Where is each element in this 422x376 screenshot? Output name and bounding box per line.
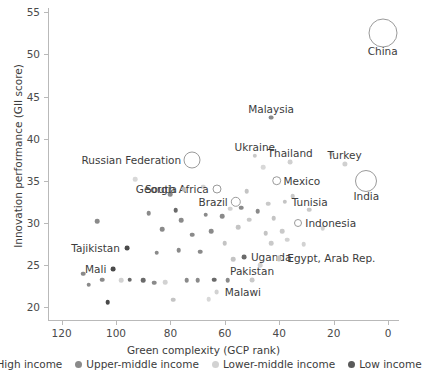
data-point-unlabeled[interactable] bbox=[280, 229, 285, 234]
data-point-unlabeled[interactable] bbox=[209, 229, 214, 234]
data-point[interactable] bbox=[184, 151, 201, 168]
data-point-unlabeled[interactable] bbox=[119, 278, 124, 283]
data-point-unlabeled[interactable] bbox=[163, 280, 168, 285]
data-point-unlabeled[interactable] bbox=[141, 278, 146, 283]
legend-dot-icon bbox=[75, 361, 82, 368]
data-point-unlabeled[interactable] bbox=[171, 297, 176, 302]
point-label: Tunisia bbox=[292, 197, 328, 208]
data-point-unlabeled[interactable] bbox=[285, 238, 290, 243]
data-point-unlabeled[interactable] bbox=[106, 300, 111, 305]
data-point-unlabeled[interactable] bbox=[206, 297, 211, 302]
legend-item-0[interactable]: High income bbox=[0, 358, 62, 370]
x-tick-label: 20 bbox=[319, 327, 349, 339]
point-label: Uganda bbox=[251, 252, 292, 263]
data-point[interactable] bbox=[269, 115, 274, 120]
data-point[interactable] bbox=[355, 170, 377, 192]
data-point[interactable] bbox=[111, 267, 116, 272]
legend-label: Low income bbox=[359, 358, 421, 370]
point-label: China bbox=[368, 46, 398, 57]
point-label: Turkey bbox=[327, 150, 361, 161]
point-label: Thailand bbox=[268, 148, 313, 159]
data-point-unlabeled[interactable] bbox=[225, 278, 230, 283]
data-point-unlabeled[interactable] bbox=[174, 208, 179, 213]
data-point-unlabeled[interactable] bbox=[146, 211, 151, 216]
data-point-unlabeled[interactable] bbox=[190, 233, 195, 238]
x-tick bbox=[170, 321, 171, 325]
data-point-unlabeled[interactable] bbox=[228, 206, 233, 211]
point-label: Malaysia bbox=[248, 103, 294, 114]
data-point[interactable] bbox=[242, 254, 247, 259]
legend-label: Upper-middle income bbox=[86, 358, 199, 370]
data-point-unlabeled[interactable] bbox=[95, 219, 100, 224]
data-point-unlabeled[interactable] bbox=[179, 218, 184, 223]
data-point[interactable] bbox=[125, 246, 130, 251]
legend-dot-icon bbox=[212, 361, 219, 368]
data-point-unlabeled[interactable] bbox=[87, 282, 92, 287]
data-point-unlabeled[interactable] bbox=[195, 278, 200, 283]
x-tick bbox=[388, 321, 389, 325]
data-point-unlabeled[interactable] bbox=[127, 277, 132, 282]
data-point-unlabeled[interactable] bbox=[176, 248, 181, 253]
data-point-unlabeled[interactable] bbox=[255, 209, 260, 214]
legend-dot-icon bbox=[348, 361, 355, 368]
data-point-unlabeled[interactable] bbox=[184, 278, 189, 283]
point-label: Mexico bbox=[284, 176, 321, 187]
point-label: Malawi bbox=[225, 287, 261, 298]
data-point[interactable] bbox=[214, 290, 219, 295]
data-point-unlabeled[interactable] bbox=[307, 207, 312, 212]
x-tick-label: 60 bbox=[210, 327, 240, 339]
data-point-unlabeled[interactable] bbox=[266, 201, 271, 206]
data-point-unlabeled[interactable] bbox=[220, 214, 225, 219]
data-point-unlabeled[interactable] bbox=[155, 250, 160, 255]
data-point-unlabeled[interactable] bbox=[212, 277, 217, 282]
data-point[interactable] bbox=[212, 185, 221, 194]
point-label: India bbox=[353, 191, 379, 202]
legend-item-3[interactable]: Low income bbox=[348, 358, 421, 370]
data-point-unlabeled[interactable] bbox=[247, 217, 252, 222]
data-point-unlabeled[interactable] bbox=[204, 212, 209, 217]
data-point-unlabeled[interactable] bbox=[244, 189, 249, 194]
x-tick bbox=[279, 321, 280, 325]
data-point-unlabeled[interactable] bbox=[152, 281, 157, 286]
data-point[interactable] bbox=[288, 160, 293, 165]
point-label: Indonesia bbox=[305, 218, 356, 229]
data-point[interactable] bbox=[368, 19, 397, 48]
data-point[interactable] bbox=[272, 176, 282, 186]
point-label: Egypt, Arab Rep. bbox=[287, 253, 375, 264]
data-point-unlabeled[interactable] bbox=[301, 242, 306, 247]
x-tick-label: 100 bbox=[101, 327, 131, 339]
point-label: Russian Federation bbox=[82, 155, 182, 166]
x-tick bbox=[334, 321, 335, 325]
x-axis-title: Green complexity (GCP rank) bbox=[0, 344, 407, 356]
point-label: Georgia bbox=[136, 184, 177, 195]
clipped-title bbox=[0, 0, 407, 5]
data-point-unlabeled[interactable] bbox=[272, 216, 277, 221]
data-point-unlabeled[interactable] bbox=[239, 206, 244, 211]
data-point-unlabeled[interactable] bbox=[160, 227, 165, 232]
legend-label: High income bbox=[0, 358, 62, 370]
x-tick-label: 120 bbox=[47, 327, 77, 339]
data-point[interactable] bbox=[250, 278, 255, 283]
data-point-unlabeled[interactable] bbox=[198, 249, 203, 254]
x-axis-line bbox=[48, 320, 399, 321]
legend-label: Lower-middle income bbox=[223, 358, 335, 370]
data-point-unlabeled[interactable] bbox=[100, 277, 105, 282]
data-point-unlabeled[interactable] bbox=[236, 225, 241, 230]
legend-item-1[interactable]: Upper-middle income bbox=[75, 358, 199, 370]
point-label: Tajikistan bbox=[71, 243, 120, 254]
x-tick bbox=[62, 321, 63, 325]
y-axis-title: Innovation performance (GII score) bbox=[12, 6, 24, 306]
data-point-unlabeled[interactable] bbox=[261, 165, 266, 170]
data-point-unlabeled[interactable] bbox=[133, 177, 138, 182]
data-point-unlabeled[interactable] bbox=[269, 241, 274, 246]
x-tick-label: 40 bbox=[264, 327, 294, 339]
data-point-unlabeled[interactable] bbox=[263, 231, 268, 236]
point-label: Mali bbox=[85, 264, 106, 275]
data-point-unlabeled[interactable] bbox=[223, 241, 228, 246]
point-label: Pakistan bbox=[230, 266, 274, 277]
legend-item-2[interactable]: Lower-middle income bbox=[212, 358, 335, 370]
data-point-unlabeled[interactable] bbox=[231, 257, 236, 262]
data-point[interactable] bbox=[294, 219, 302, 227]
x-tick bbox=[225, 321, 226, 325]
